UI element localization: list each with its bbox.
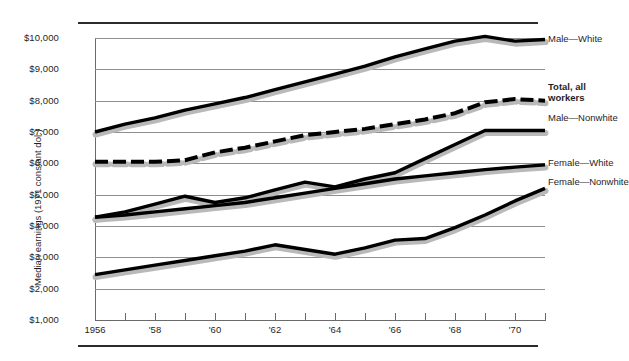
series-shadow [96,133,546,220]
series-line [95,36,545,132]
series-label-male-nonwhite: Male—Nonwhite [548,112,618,123]
series-label-total-all-workers-line2: workers [548,92,584,103]
series-shadow [96,39,546,135]
series-label-male-white: Male—White [548,33,602,44]
series-label-total-all-workers-line1: Total, all [548,81,586,92]
series-label-female-nonwhite: Female—Nonwhite [548,176,629,187]
series-label-female-white: Female—White [548,157,613,168]
